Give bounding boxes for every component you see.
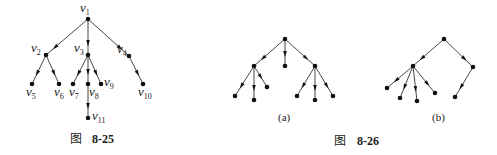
arrowhead-icon: [86, 40, 90, 46]
arrowhead-icon: [86, 69, 90, 75]
caption-8-25-prefix: 图: [70, 132, 82, 146]
node-v2: [44, 53, 49, 58]
node-label-v10: v10: [138, 84, 152, 101]
node-label-v11: v11: [92, 108, 105, 125]
node-label-v5: v5: [26, 84, 36, 101]
arrowhead-icon: [460, 83, 465, 89]
edge: [235, 66, 254, 96]
arrowhead-icon: [252, 85, 256, 91]
arrowhead-icon: [258, 73, 263, 79]
node-r: [442, 37, 447, 42]
node-a4: [433, 91, 438, 96]
edge: [315, 66, 333, 96]
arrowhead-icon: [240, 82, 245, 88]
arrowhead-icon: [77, 70, 81, 76]
node-a1: [233, 94, 238, 99]
node-v3: [86, 53, 91, 58]
arrowhead-icon: [86, 103, 90, 109]
arrowhead-icon: [93, 70, 97, 76]
arrowhead-icon: [283, 51, 287, 57]
edge: [73, 55, 88, 84]
edge: [413, 66, 417, 101]
node-label-v2: v2: [31, 40, 41, 57]
node-v11: [86, 116, 91, 121]
arrowhead-icon: [414, 86, 418, 92]
node-a1: [385, 86, 390, 91]
edge: [455, 67, 473, 97]
node-v9: [99, 82, 104, 87]
edge: [400, 66, 413, 98]
diagram-canvas: v1v2v3v4v5v6v7v8v9v10v11 图 8-25 (a) (b) …: [0, 0, 497, 155]
arrowhead-icon: [403, 83, 407, 89]
node-c: [313, 64, 318, 69]
arrowhead-icon: [302, 82, 307, 88]
node-a: [252, 64, 257, 69]
node-label-v7: v7: [69, 84, 79, 101]
node-a: [411, 64, 416, 69]
node-label-v8: v8: [89, 84, 99, 101]
arrowhead-icon: [51, 70, 55, 76]
node-b1: [453, 95, 458, 100]
edge: [444, 39, 473, 67]
node-a2: [252, 98, 257, 103]
edge: [387, 66, 413, 88]
node-c3: [331, 94, 336, 99]
caption-8-25-number: 8-25: [92, 132, 114, 146]
subfigure-label-b: (b): [432, 111, 445, 124]
caption-8-26-prefix: 图: [334, 134, 346, 148]
edge: [46, 55, 59, 84]
node-a3: [415, 99, 420, 104]
figure-8-25-tree: v1v2v3v4v5v6v7v8v9v10v11: [26, 0, 152, 125]
node-label-v4: v4: [117, 41, 127, 58]
node-r: [283, 37, 288, 42]
node-a3: [265, 85, 270, 90]
arrowhead-icon: [313, 85, 317, 91]
figure-8-26b-tree: [385, 37, 476, 104]
edge: [254, 39, 285, 66]
node-v4: [127, 54, 132, 59]
node-label-v6: v6: [54, 84, 64, 101]
node-label-v3: v3: [74, 40, 84, 57]
node-v1: [86, 17, 91, 22]
node-label-v9: v9: [104, 74, 114, 91]
edge: [129, 56, 143, 84]
caption-8-26-number: 8-26: [357, 134, 379, 148]
edge: [297, 66, 315, 96]
arrowhead-icon: [36, 70, 40, 76]
edge: [32, 55, 46, 84]
node-a2: [398, 96, 403, 101]
node-label-v1: v1: [80, 0, 90, 17]
edge: [285, 39, 315, 66]
arrowhead-icon: [135, 70, 139, 76]
edge: [88, 55, 101, 84]
subfigure-label-a: (a): [278, 111, 291, 124]
node-b: [471, 65, 476, 70]
edge: [413, 39, 444, 66]
node-c1: [295, 94, 300, 99]
node-c2: [313, 98, 318, 103]
arrowhead-icon: [324, 82, 329, 88]
node-b: [283, 64, 288, 69]
figure-8-26a-tree: [233, 37, 336, 103]
